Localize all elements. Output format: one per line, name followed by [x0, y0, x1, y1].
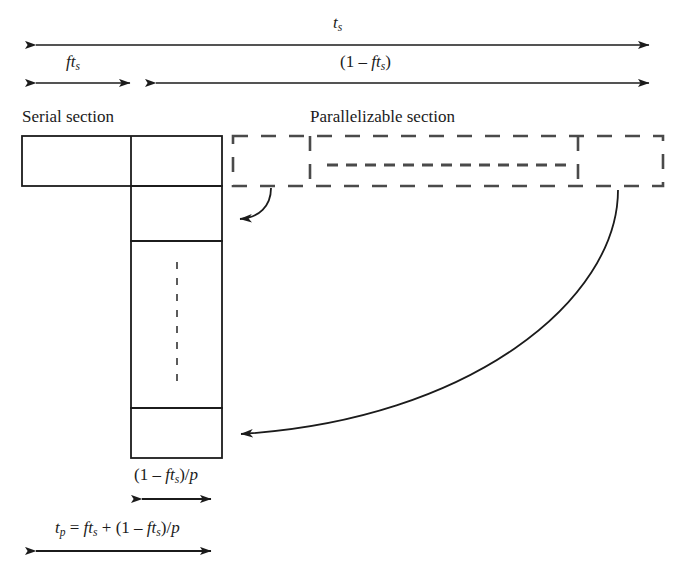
label-serial-section: Serial section: [22, 108, 114, 125]
label-serial-fraction-sub: s: [75, 60, 80, 73]
diagram-canvas: [0, 0, 687, 577]
label-tp-term2-divisor: p: [171, 518, 180, 537]
callout-arrow-long-path: [241, 190, 618, 434]
label-tp-term2-open: (1 –: [116, 518, 147, 537]
label-tp-term2-close: )/: [161, 518, 171, 537]
label-parallel-fraction-open: (1 –: [340, 52, 371, 71]
column-cell-top: [131, 186, 222, 241]
label-total-time: ts: [333, 14, 342, 34]
label-tp-equals: =: [66, 518, 84, 537]
serial-row-rect: [22, 136, 222, 186]
label-parallel-over-p-base: ft: [165, 465, 174, 484]
label-total-parallel-time: tp = fts + (1 – fts)/p: [55, 519, 180, 539]
label-tp-term2-base: ft: [147, 518, 156, 537]
parallel-column-block: [131, 186, 222, 458]
label-tp-term1-base: ft: [84, 518, 93, 537]
label-total-time-sub: s: [338, 21, 343, 34]
label-parallel-over-p-divisor: p: [190, 465, 199, 484]
label-parallel-fraction: (1 – fts): [340, 53, 391, 73]
label-parallel-over-p-close: )/: [179, 465, 189, 484]
column-cell-bottom: [131, 408, 222, 458]
label-parallel-fraction-close: ): [385, 52, 391, 71]
parallelizable-region: [233, 136, 663, 186]
label-parallel-over-p-open: (1 –: [134, 465, 165, 484]
callout-arrow-short-path: [240, 188, 271, 219]
label-serial-fraction: fts: [66, 53, 80, 73]
callout-arrow-long: [241, 190, 618, 434]
parallelizable-region-rect: [233, 136, 663, 186]
label-parallel-over-p: (1 – fts)/p: [134, 466, 198, 486]
label-tp-plus: +: [98, 518, 116, 537]
serial-section-block: [22, 136, 222, 186]
callout-arrow-short: [240, 188, 271, 219]
label-parallel-fraction-base: ft: [371, 52, 380, 71]
label-parallelizable-section: Parallelizable section: [310, 108, 455, 125]
